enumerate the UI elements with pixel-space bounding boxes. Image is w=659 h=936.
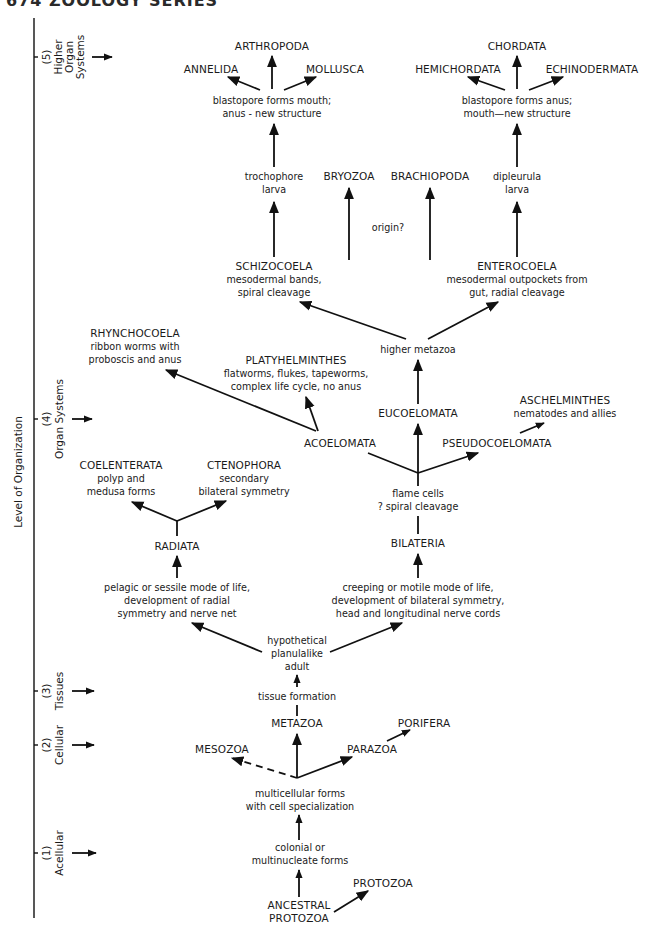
svg-text:proboscis and anus: proboscis and anus: [89, 354, 182, 365]
svg-text:ribbon worms with: ribbon worms with: [90, 341, 179, 352]
node-ctenophora: CTENOPHORA: [207, 459, 282, 471]
svg-text:Cellular: Cellular: [53, 724, 65, 765]
node-echinodermata: ECHINODERMATA: [546, 63, 639, 75]
svg-text:mesodermal bands,: mesodermal bands,: [226, 274, 321, 285]
deuterostome-note-line2: mouth—new structure: [463, 108, 570, 119]
radiata-note-line1: pelagic or sessile mode of life,: [104, 582, 250, 593]
node-hemichordata: HEMICHORDATA: [415, 63, 501, 75]
svg-text:(3): (3): [40, 684, 52, 699]
svg-text:Acellular: Acellular: [53, 830, 65, 876]
radiata-note-line2: development of radial: [124, 595, 230, 606]
protostome-note-line2: anus - new structure: [222, 108, 321, 119]
level-1: (1) Acellular: [34, 830, 96, 876]
node-platyhelminthes: PLATYHELMINTHES: [245, 354, 346, 366]
multicellular-line1: multicellular forms: [255, 788, 345, 799]
node-brachiopoda: BRACHIOPODA: [391, 170, 470, 182]
dipleurula-line1: dipleurula: [493, 171, 541, 182]
node-aschelminthes: ASCHELMINTHES: [520, 394, 611, 406]
level-4: (4) Organ Systems: [34, 379, 92, 459]
node-annelida: ANNELIDA: [184, 63, 239, 75]
origin-note: origin?: [372, 222, 404, 233]
svg-text:medusa forms: medusa forms: [87, 486, 156, 497]
svg-text:(5): (5): [40, 50, 52, 65]
tissue-formation: tissue formation: [258, 691, 336, 702]
svg-text:spiral cleavage: spiral cleavage: [238, 287, 311, 298]
node-coelenterata: COELENTERATA: [80, 459, 164, 471]
svg-text:nematodes and allies: nematodes and allies: [514, 408, 617, 419]
multicellular-line2: with cell specialization: [246, 801, 354, 812]
svg-text:mesodermal outpockets from: mesodermal outpockets from: [446, 274, 587, 285]
svg-text:(2): (2): [40, 738, 52, 753]
node-protozoa: PROTOZOA: [353, 877, 414, 889]
svg-text:Systems: Systems: [74, 35, 86, 80]
node-radiata: RADIATA: [154, 540, 200, 552]
planula-line1: hypothetical: [267, 635, 327, 646]
node-ancestral-line1: ANCESTRAL: [268, 899, 331, 911]
node-bilateria: BILATERIA: [391, 537, 446, 549]
node-pseudocoelomata: PSEUDOCOELOMATA: [442, 437, 552, 449]
svg-text:Tissues: Tissues: [53, 672, 65, 712]
planula-line3: adult: [285, 661, 310, 672]
node-enterocoela: ENTEROCOELA: [477, 260, 557, 272]
svg-text:Organ Systems: Organ Systems: [53, 379, 65, 459]
bilateria-note-line2: development of bilateral symmetry,: [332, 595, 505, 606]
level-5: (5) Higher Organ Systems: [34, 35, 112, 80]
node-arthropoda: ARTHROPODA: [235, 40, 310, 52]
node-parazoa: PARAZOA: [347, 743, 398, 755]
node-chordata: CHORDATA: [488, 40, 547, 52]
node-eucoelomata: EUCOELOMATA: [378, 407, 458, 419]
svg-text:complex life cycle, no anus: complex life cycle, no anus: [231, 381, 361, 392]
svg-text:polyp and: polyp and: [97, 473, 145, 484]
svg-text:(4): (4): [40, 412, 52, 427]
level-3: (3) Tissues: [34, 672, 94, 712]
axis-label: Level of Organization: [12, 416, 24, 528]
svg-text:flatworms, flukes, tapeworms,: flatworms, flukes, tapeworms,: [224, 368, 368, 379]
svg-text:gut, radial cleavage: gut, radial cleavage: [469, 287, 565, 298]
protostome-note-line1: blastopore forms mouth;: [213, 95, 332, 106]
node-acoelomata: ACOELOMATA: [304, 437, 377, 449]
node-porifera: PORIFERA: [398, 717, 451, 729]
svg-text:(1): (1): [40, 846, 52, 861]
colonial-line1: colonial or: [275, 842, 325, 853]
colonial-line2: multinucleate forms: [252, 855, 348, 866]
node-metazoa: METAZOA: [271, 717, 323, 729]
node-mesozoa: MESOZOA: [195, 743, 249, 755]
node-rhynchocoela: RHYNCHOCOELA: [90, 327, 180, 339]
flame-cells-line2: ? spiral cleavage: [378, 501, 459, 512]
level-2: (2) Cellular: [34, 724, 94, 765]
phylogeny-diagram: Level of Organization (5) Higher Organ S…: [0, 0, 659, 936]
svg-text:bilateral symmetry: bilateral symmetry: [198, 486, 289, 497]
svg-text:secondary: secondary: [219, 473, 269, 484]
deuterostome-note-line1: blastopore forms anus;: [462, 95, 573, 106]
radiata-note-line3: symmetry and nerve net: [117, 608, 236, 619]
flame-cells-line1: flame cells: [392, 488, 444, 499]
planula-line2: planulalike: [271, 648, 323, 659]
node-higher-metazoa: higher metazoa: [380, 344, 456, 355]
node-schizocoela: SCHIZOCOELA: [235, 260, 313, 272]
node-mollusca: MOLLUSCA: [306, 63, 365, 75]
node-bryozoa: BRYOZOA: [323, 170, 375, 182]
bilateria-note-line1: creeping or motile mode of life,: [342, 582, 493, 593]
bilateria-note-line3: head and longitudinal nerve cords: [336, 608, 500, 619]
trochophore-line2: larva: [262, 184, 286, 195]
dipleurula-line2: larva: [505, 184, 529, 195]
node-ancestral-line2: PROTOZOA: [269, 912, 330, 924]
trochophore-line1: trochophore: [245, 171, 303, 182]
